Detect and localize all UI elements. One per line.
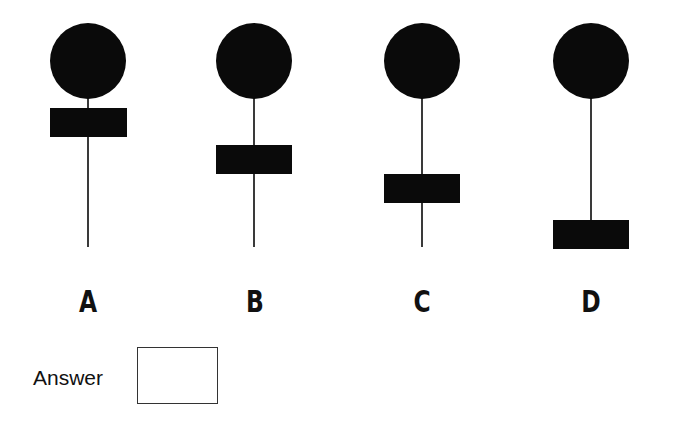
option-label-c: C <box>406 284 437 319</box>
option-label-b: B <box>239 284 270 319</box>
option-label-a: A <box>72 284 103 319</box>
answer-label: Answer <box>33 366 103 390</box>
circle-a <box>50 23 126 99</box>
circle-d <box>553 23 629 99</box>
puzzle-figures <box>0 0 675 260</box>
circle-c <box>384 23 460 99</box>
block-c <box>384 174 460 203</box>
circle-b <box>216 23 292 99</box>
block-b <box>216 145 292 174</box>
block-d <box>553 220 629 249</box>
block-a <box>50 108 127 137</box>
option-label-d: D <box>575 284 606 319</box>
answer-input-box[interactable] <box>137 347 218 404</box>
